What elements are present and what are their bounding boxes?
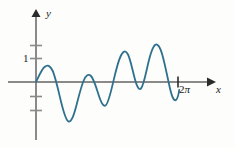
- chart-figure: y x 1 2π: [0, 0, 235, 148]
- x-tick-label-two-pi: 2π: [179, 84, 190, 95]
- x-axis-arrowhead: [207, 78, 216, 87]
- y-tick-label-one: 1: [23, 53, 29, 64]
- y-axis-label: y: [46, 8, 51, 19]
- plot-area: [0, 0, 235, 148]
- curve-damped-oscillation: [36, 44, 179, 121]
- y-axis-arrowhead: [32, 9, 41, 17]
- x-axis-label: x: [216, 84, 221, 95]
- pi-symbol: π: [185, 83, 191, 95]
